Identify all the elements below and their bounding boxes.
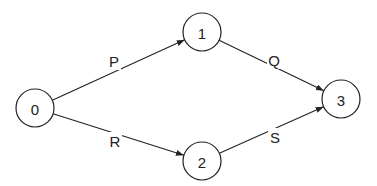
node-label: 1 (198, 25, 206, 42)
node-label: 0 (31, 101, 39, 118)
edge-s: S (219, 107, 323, 154)
node-label: 3 (337, 92, 345, 109)
node-1: 1 (183, 13, 221, 51)
node-3: 3 (322, 80, 360, 118)
node-0: 0 (16, 89, 54, 127)
node-label: 2 (198, 154, 206, 171)
node-2: 2 (183, 142, 221, 180)
edge-label-s: S (270, 129, 280, 146)
edge-p: P (52, 40, 184, 100)
edge-label-q: Q (268, 52, 280, 69)
edge-q: Q (219, 40, 324, 91)
edge-label-p: P (109, 53, 119, 70)
edge-r: R (53, 114, 184, 156)
network-diagram: PQRS 0123 (0, 0, 377, 186)
edge-label-r: R (110, 133, 121, 150)
